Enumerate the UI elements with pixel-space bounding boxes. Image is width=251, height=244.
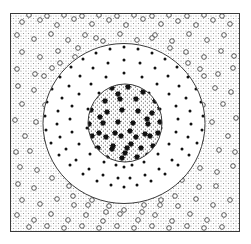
middle-dot-marker bbox=[102, 174, 105, 177]
outer-ring-marker bbox=[71, 194, 76, 199]
middle-dot-marker bbox=[70, 66, 73, 69]
middle-dot-marker bbox=[123, 59, 126, 62]
middle-dot-marker bbox=[175, 105, 178, 108]
outer-ring-marker bbox=[216, 72, 221, 77]
outer-ring-marker bbox=[220, 225, 225, 230]
middle-dot-marker bbox=[188, 154, 191, 157]
middle-dot-marker bbox=[71, 131, 74, 134]
middle-dot-marker bbox=[139, 62, 142, 65]
outer-ring-marker bbox=[101, 39, 106, 44]
outer-ring-marker bbox=[213, 86, 218, 91]
outer-ring-marker bbox=[72, 17, 77, 22]
outer-ring-marker bbox=[158, 203, 163, 208]
middle-dot-marker bbox=[168, 143, 171, 146]
outer-ring-marker bbox=[76, 46, 81, 51]
middle-dot-marker bbox=[45, 129, 48, 132]
outer-ring-marker bbox=[222, 33, 227, 38]
outer-ring-marker bbox=[80, 14, 85, 19]
outer-ring-marker bbox=[20, 20, 25, 25]
outer-ring-marker bbox=[170, 39, 175, 44]
middle-dot-marker bbox=[61, 97, 64, 100]
outer-ring-marker bbox=[142, 203, 147, 208]
outer-ring-marker bbox=[229, 90, 234, 95]
outer-ring-marker bbox=[176, 204, 181, 209]
outer-ring-marker bbox=[233, 150, 238, 155]
middle-dot-marker bbox=[95, 52, 98, 55]
outer-ring-marker bbox=[202, 226, 207, 231]
middle-dot-marker bbox=[96, 180, 99, 183]
middle-dot-marker bbox=[107, 62, 110, 65]
middle-dot-marker bbox=[105, 76, 108, 79]
middle-dot-marker bbox=[181, 148, 184, 151]
middle-dot-marker bbox=[187, 136, 190, 139]
outer-ring-marker bbox=[49, 212, 54, 217]
outer-ring-marker bbox=[214, 184, 219, 189]
middle-dot-marker bbox=[50, 142, 53, 145]
outer-ring-marker bbox=[67, 184, 72, 189]
outer-ring-marker bbox=[34, 120, 39, 125]
outer-ring-marker bbox=[38, 202, 43, 207]
outer-ring-marker bbox=[90, 22, 95, 27]
outer-ring-marker bbox=[220, 14, 225, 19]
outer-ring-marker bbox=[210, 120, 215, 125]
middle-dot-marker bbox=[201, 129, 204, 132]
outer-ring-marker bbox=[14, 150, 19, 155]
framed-field bbox=[8, 11, 244, 236]
outer-ring-marker bbox=[115, 224, 120, 229]
outer-ring-marker bbox=[150, 14, 155, 19]
outer-ring-marker bbox=[124, 23, 129, 28]
middle-dot-marker bbox=[123, 46, 126, 49]
outer-ring-marker bbox=[97, 226, 102, 231]
middle-dot-marker bbox=[157, 153, 160, 156]
middle-dot-marker bbox=[123, 186, 126, 189]
outer-ring-marker bbox=[122, 208, 127, 213]
middle-dot-marker bbox=[78, 143, 81, 146]
outer-ring-marker bbox=[94, 36, 99, 41]
outer-ring-marker bbox=[32, 88, 37, 93]
outer-ring-marker bbox=[45, 14, 50, 19]
outer-ring-marker bbox=[150, 224, 155, 229]
outer-ring-marker bbox=[173, 194, 178, 199]
outer-ring-marker bbox=[231, 164, 236, 169]
middle-dot-marker bbox=[158, 168, 161, 171]
outer-ring-marker bbox=[27, 225, 32, 230]
outer-ring-marker bbox=[141, 17, 146, 22]
outer-ring-marker bbox=[170, 219, 175, 224]
outer-ring-marker bbox=[66, 38, 71, 43]
outer-ring-marker bbox=[49, 32, 54, 37]
middle-dot-marker bbox=[164, 173, 167, 176]
middle-dot-marker bbox=[196, 142, 199, 145]
outer-ring-marker bbox=[83, 33, 88, 38]
outer-ring-marker bbox=[202, 74, 207, 79]
outer-ring-marker bbox=[15, 67, 20, 72]
outer-ring-marker bbox=[188, 212, 193, 217]
outer-ring-marker bbox=[80, 224, 85, 229]
outer-ring-marker bbox=[33, 72, 38, 77]
outer-ring-marker bbox=[185, 14, 190, 19]
outer-ring-marker bbox=[90, 198, 95, 203]
outer-ring-marker bbox=[15, 33, 20, 38]
middle-dot-marker bbox=[68, 85, 71, 88]
middle-dot-marker bbox=[136, 184, 139, 187]
middle-dot-marker bbox=[129, 177, 132, 180]
middle-dot-marker bbox=[141, 76, 144, 79]
outer-ring-marker bbox=[104, 210, 109, 215]
outer-ring-marker bbox=[222, 213, 227, 218]
middle-dot-marker bbox=[82, 58, 85, 61]
middle-dot-marker bbox=[92, 67, 95, 70]
middle-dot-marker bbox=[123, 72, 126, 75]
middle-dot-marker bbox=[90, 83, 93, 86]
outer-ring-marker bbox=[132, 226, 137, 231]
outer-ring-marker bbox=[32, 186, 37, 191]
outer-ring-marker bbox=[72, 203, 77, 208]
concentric-zone-diagram bbox=[0, 0, 251, 244]
middle-dot-marker bbox=[123, 166, 126, 169]
middle-dot-marker bbox=[117, 177, 120, 180]
middle-dot-marker bbox=[156, 83, 159, 86]
middle-dot-marker bbox=[137, 48, 140, 51]
middle-dot-marker bbox=[175, 131, 178, 134]
middle-dot-marker bbox=[143, 161, 146, 164]
outer-ring-marker bbox=[13, 118, 18, 123]
outer-ring-marker bbox=[23, 134, 28, 139]
middle-dot-marker bbox=[109, 48, 112, 51]
